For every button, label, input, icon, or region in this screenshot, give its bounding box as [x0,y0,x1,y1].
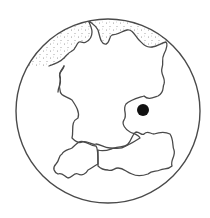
switzerland-border [54,141,98,178]
city-marker-icon [137,104,149,116]
map-svg [0,0,210,218]
sea-region [0,0,210,66]
austria-border [98,132,174,176]
locator-map: Central Europe locator map [0,0,210,218]
